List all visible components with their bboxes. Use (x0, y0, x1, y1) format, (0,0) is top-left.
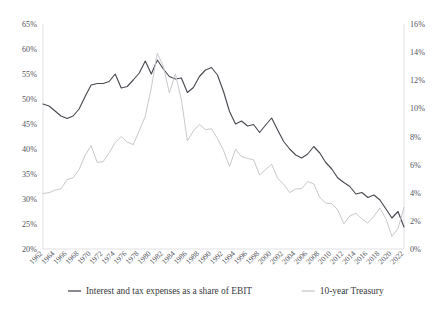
legend-label-1: Interest and tax expenses as a share of … (86, 286, 252, 296)
right-tick-label: 12% (410, 76, 425, 85)
right-tick-label: 14% (410, 48, 425, 57)
left-tick-label: 45% (22, 120, 37, 129)
series-lines (43, 53, 404, 236)
x-axis-tick-labels: 1962196419661968197019721974197619781980… (27, 249, 405, 266)
left-axis-ticks: 20%25%30%35%40%45%50%55%60%65% (22, 20, 37, 254)
left-tick-label: 50% (22, 95, 37, 104)
right-tick-label: 10% (410, 104, 425, 113)
left-tick-label: 65% (22, 20, 37, 29)
left-tick-label: 40% (22, 145, 37, 154)
chart-legend: Interest and tax expenses as a share of … (68, 286, 384, 296)
right-tick-label: 8% (410, 133, 421, 142)
x-axis: 1962196419661968197019721974197619781980… (27, 249, 405, 266)
left-axis: 20%25%30%35%40%45%50%55%60%65% (22, 20, 43, 254)
chart-container: 20%25%30%35%40%45%50%55%60%65% 0%2%4%6%8… (0, 0, 447, 309)
svg-text:2022: 2022 (388, 249, 405, 266)
right-tick-label: 0% (410, 245, 421, 254)
right-tick-label: 2% (410, 217, 421, 226)
right-tick-label: 16% (410, 20, 425, 29)
right-tick-label: 6% (410, 161, 421, 170)
left-tick-label: 30% (22, 195, 37, 204)
legend-label-2: 10-year Treasury (320, 286, 384, 296)
line-chart: 20%25%30%35%40%45%50%55%60%65% 0%2%4%6%8… (0, 0, 447, 309)
left-tick-label: 60% (22, 45, 37, 54)
left-tick-label: 25% (22, 220, 37, 229)
right-axis-ticks: 0%2%4%6%8%10%12%14%16% (410, 20, 425, 254)
right-tick-label: 4% (410, 189, 421, 198)
x-tick-label: 2022 (388, 249, 405, 266)
series-line-1 (43, 60, 404, 227)
left-tick-label: 35% (22, 170, 37, 179)
left-tick-label: 55% (22, 70, 37, 79)
series-line-2 (43, 53, 404, 236)
right-axis: 0%2%4%6%8%10%12%14%16% (404, 20, 425, 254)
